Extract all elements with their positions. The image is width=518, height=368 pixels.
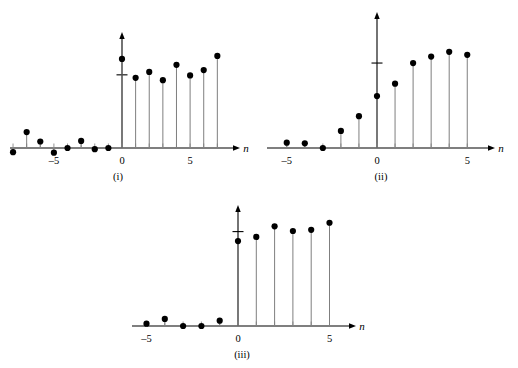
- x-tick-label-5: 5: [327, 333, 332, 344]
- plot-caption: (iii): [234, 349, 250, 361]
- stem-marker: [284, 140, 290, 146]
- stem-plot-iii: –505n(iii): [130, 185, 390, 368]
- stem-marker: [428, 53, 434, 59]
- stem-marker: [326, 220, 332, 226]
- x-tick-label-0: 0: [374, 155, 379, 166]
- stem-marker: [290, 228, 296, 234]
- stem-marker: [410, 60, 416, 66]
- stem-marker: [180, 323, 186, 329]
- stem-marker: [10, 149, 16, 155]
- stem-marker: [173, 62, 179, 68]
- stem-marker: [464, 52, 470, 58]
- x-tick-label--5: –5: [48, 155, 60, 166]
- x-tick-label-0: 0: [235, 333, 240, 344]
- x-axis-label: n: [243, 142, 249, 154]
- stem-marker: [133, 75, 139, 81]
- plot-iii-canvas: –505n(iii): [130, 185, 390, 368]
- stem-marker: [119, 56, 125, 62]
- plot-caption: (ii): [375, 171, 388, 183]
- x-tick-label-5: 5: [465, 155, 470, 166]
- stem-marker: [272, 223, 278, 229]
- y-axis-arrowhead: [235, 205, 240, 212]
- stem-marker: [37, 138, 43, 144]
- stem-marker: [64, 145, 70, 151]
- y-axis-arrowhead: [374, 12, 379, 19]
- stem-marker: [356, 113, 362, 119]
- stem-marker: [160, 77, 166, 83]
- plot-ii-canvas: –505n(ii): [259, 0, 518, 190]
- stem-marker: [235, 238, 241, 244]
- stem-marker: [201, 67, 207, 73]
- stem-marker: [146, 69, 152, 75]
- x-axis-arrowhead: [233, 145, 240, 150]
- y-axis-arrowhead: [119, 32, 124, 39]
- stem-marker: [105, 145, 111, 151]
- stem-marker: [446, 49, 452, 55]
- stem-marker: [320, 145, 326, 151]
- x-axis-arrowhead: [488, 145, 495, 150]
- stem-marker: [78, 138, 84, 144]
- stem-plot-i: –505n(i): [0, 0, 259, 190]
- stem-marker: [302, 140, 308, 146]
- stem-marker: [198, 323, 204, 329]
- plot-i-canvas: –505n(i): [0, 0, 259, 190]
- stem-marker: [92, 146, 98, 152]
- x-axis-label: n: [498, 142, 504, 154]
- stem-marker: [162, 316, 168, 322]
- x-tick-label--5: –5: [281, 155, 293, 166]
- stem-marker: [214, 53, 220, 59]
- stem-marker: [143, 321, 149, 327]
- stem-marker: [24, 129, 30, 135]
- x-tick-label--5: –5: [140, 333, 152, 344]
- stem-marker: [253, 234, 259, 240]
- stem-marker: [308, 227, 314, 233]
- stem-marker: [392, 81, 398, 87]
- stem-marker: [374, 93, 380, 99]
- plot-caption: (i): [113, 171, 123, 183]
- x-tick-label-0: 0: [119, 155, 124, 166]
- x-tick-label-5: 5: [187, 155, 192, 166]
- x-axis-label: n: [359, 320, 365, 332]
- stem-plot-ii: –505n(ii): [259, 0, 518, 190]
- stem-marker: [338, 128, 344, 134]
- x-axis-arrowhead: [349, 323, 356, 328]
- stem-marker: [217, 318, 223, 324]
- stem-marker: [187, 72, 193, 78]
